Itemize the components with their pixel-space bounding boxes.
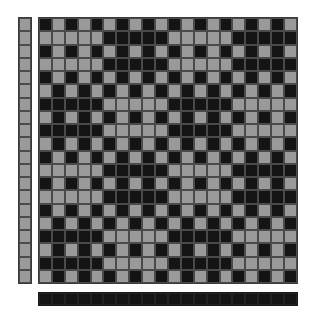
pattern-cell bbox=[207, 111, 220, 124]
pattern-cell bbox=[129, 177, 142, 190]
bottom-bar-cell bbox=[116, 293, 129, 305]
bottom-bar-cell bbox=[129, 293, 142, 305]
pattern-cell bbox=[181, 257, 194, 270]
bottom-bar-cell bbox=[91, 293, 104, 305]
pattern-cell bbox=[52, 177, 65, 190]
pattern-cell bbox=[78, 243, 91, 256]
pattern-cell bbox=[194, 31, 207, 44]
pattern-cell bbox=[258, 177, 271, 190]
pattern-cell bbox=[52, 71, 65, 84]
pattern-cell bbox=[78, 217, 91, 230]
pattern-cell bbox=[258, 18, 271, 31]
pattern-cell bbox=[103, 151, 116, 164]
pattern-cell bbox=[168, 177, 181, 190]
pattern-cell bbox=[232, 124, 245, 137]
pattern-cell bbox=[129, 204, 142, 217]
bottom-bar-grid bbox=[38, 292, 298, 306]
left-column-cell bbox=[19, 204, 31, 217]
pattern-cell bbox=[116, 217, 129, 230]
pattern-cell bbox=[168, 111, 181, 124]
pattern-cell bbox=[271, 18, 284, 31]
pattern-cell bbox=[39, 137, 52, 150]
pattern-cell bbox=[155, 58, 168, 71]
pattern-cell bbox=[220, 45, 233, 58]
pattern-cell bbox=[271, 177, 284, 190]
pattern-cell bbox=[78, 137, 91, 150]
pattern-cell bbox=[142, 257, 155, 270]
pattern-cell bbox=[39, 243, 52, 256]
pattern-cell bbox=[181, 18, 194, 31]
pattern-cell bbox=[91, 98, 104, 111]
pattern-cell bbox=[284, 190, 297, 203]
pattern-cell bbox=[65, 190, 78, 203]
pattern-cell bbox=[78, 98, 91, 111]
pattern-cell bbox=[258, 71, 271, 84]
pattern-cell bbox=[155, 18, 168, 31]
pattern-cell bbox=[220, 58, 233, 71]
pattern-cell bbox=[78, 71, 91, 84]
pattern-cell bbox=[78, 270, 91, 283]
pattern-cell bbox=[39, 217, 52, 230]
pattern-cell bbox=[116, 270, 129, 283]
pattern-cell bbox=[284, 217, 297, 230]
pattern-cell bbox=[103, 177, 116, 190]
pattern-cell bbox=[258, 58, 271, 71]
pattern-cell bbox=[142, 124, 155, 137]
pattern-cell bbox=[245, 18, 258, 31]
pattern-cell bbox=[194, 71, 207, 84]
pattern-cell bbox=[245, 243, 258, 256]
pattern-cell bbox=[52, 270, 65, 283]
pattern-cell bbox=[103, 230, 116, 243]
pattern-cell bbox=[78, 58, 91, 71]
pattern-cell bbox=[52, 204, 65, 217]
left-column-cell bbox=[19, 243, 31, 256]
pattern-cell bbox=[39, 31, 52, 44]
pattern-cell bbox=[258, 31, 271, 44]
bottom-bar-cell bbox=[65, 293, 78, 305]
pattern-cell bbox=[271, 111, 284, 124]
pattern-cell bbox=[207, 164, 220, 177]
pattern-cell bbox=[65, 164, 78, 177]
left-column-cell bbox=[19, 217, 31, 230]
pattern-cell bbox=[194, 190, 207, 203]
pattern-cell bbox=[65, 257, 78, 270]
pattern-cell bbox=[284, 31, 297, 44]
pattern-cell bbox=[39, 71, 52, 84]
pattern-cell bbox=[194, 257, 207, 270]
pattern-cell bbox=[129, 230, 142, 243]
pattern-cell bbox=[65, 45, 78, 58]
pattern-cell bbox=[284, 111, 297, 124]
pattern-cell bbox=[194, 243, 207, 256]
pattern-cell bbox=[168, 98, 181, 111]
pattern-cell bbox=[245, 137, 258, 150]
pattern-cell bbox=[116, 257, 129, 270]
pattern-cell bbox=[91, 217, 104, 230]
bottom-bar-cell bbox=[181, 293, 194, 305]
pattern-cell bbox=[220, 98, 233, 111]
pattern-cell bbox=[155, 164, 168, 177]
pattern-cell bbox=[271, 151, 284, 164]
pattern-cell bbox=[91, 190, 104, 203]
pattern-cell bbox=[207, 98, 220, 111]
pattern-cell bbox=[155, 190, 168, 203]
bottom-bar-cell bbox=[232, 293, 245, 305]
pattern-cell bbox=[194, 204, 207, 217]
pattern-cell bbox=[207, 257, 220, 270]
pattern-cell bbox=[52, 58, 65, 71]
pattern-cell bbox=[284, 137, 297, 150]
pattern-cell bbox=[284, 18, 297, 31]
pattern-cell bbox=[129, 190, 142, 203]
pattern-cell bbox=[194, 137, 207, 150]
pattern-cell bbox=[245, 111, 258, 124]
pattern-cell bbox=[142, 18, 155, 31]
pattern-cell bbox=[271, 124, 284, 137]
pattern-cell bbox=[207, 58, 220, 71]
pattern-cell bbox=[245, 217, 258, 230]
pattern-cell bbox=[129, 124, 142, 137]
pattern-cell bbox=[129, 164, 142, 177]
pattern-cell bbox=[103, 164, 116, 177]
pattern-cell bbox=[91, 177, 104, 190]
pattern-cell bbox=[258, 257, 271, 270]
left-column-cell bbox=[19, 71, 31, 84]
pattern-cell bbox=[91, 45, 104, 58]
